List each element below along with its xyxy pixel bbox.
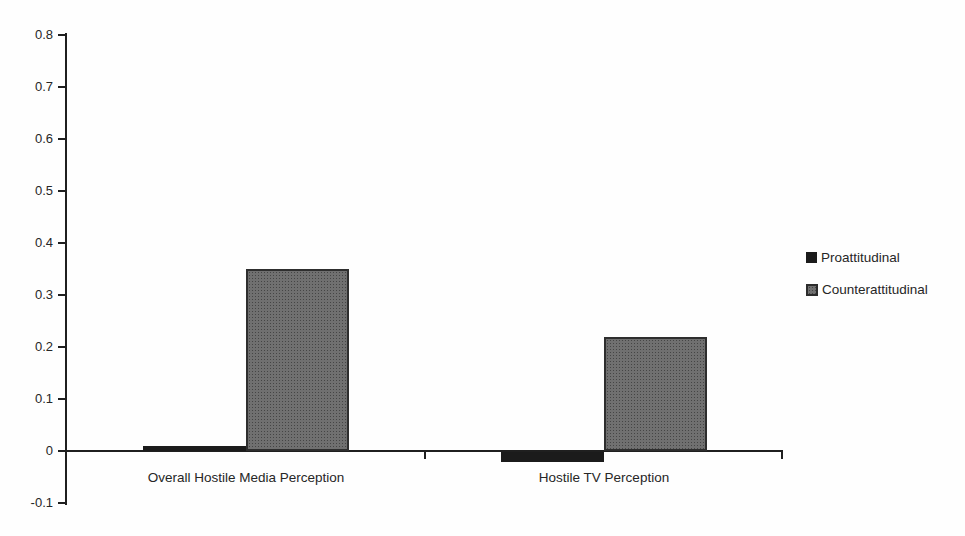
legend-item-proattitudinal: Proattitudinal: [806, 250, 928, 265]
legend-label-counterattitudinal: Counterattitudinal: [822, 282, 928, 297]
bar-counterattitudinal-group1: [604, 337, 707, 451]
x-axis-divider-tick: [424, 452, 426, 459]
y-tick-label: 0.1: [11, 391, 53, 407]
category-label: Overall Hostile Media Perception: [148, 470, 345, 485]
y-tick-label: -0.1: [11, 495, 53, 511]
category-label: Hostile TV Perception: [539, 470, 669, 485]
y-tick: [58, 398, 65, 400]
y-tick: [58, 346, 65, 348]
x-axis-end-tick: [781, 452, 783, 459]
legend-swatch-counterattitudinal-icon: [806, 284, 818, 296]
y-tick-label: 0.3: [11, 287, 53, 303]
y-axis: [65, 33, 67, 505]
y-tick: [58, 138, 65, 140]
y-tick: [58, 294, 65, 296]
legend: Proattitudinal Counterattitudinal: [806, 250, 928, 297]
y-tick: [58, 450, 65, 452]
y-tick: [58, 190, 65, 192]
bar-chart-figure: 0.80.70.60.50.40.30.20.10-0.1Overall Hos…: [0, 0, 965, 536]
bar-counterattitudinal-group0: [246, 269, 349, 451]
y-tick-label: 0.8: [11, 27, 53, 43]
legend-swatch-proattitudinal-icon: [806, 252, 817, 263]
y-tick: [58, 86, 65, 88]
y-tick-label: 0.4: [11, 235, 53, 251]
bar-proattitudinal-group0: [143, 446, 246, 451]
legend-label-proattitudinal: Proattitudinal: [821, 250, 900, 265]
bar-proattitudinal-group1: [501, 452, 604, 462]
y-tick: [58, 34, 65, 36]
y-tick-label: 0: [11, 443, 53, 459]
y-tick-label: 0.2: [11, 339, 53, 355]
y-tick: [58, 502, 65, 504]
legend-item-counterattitudinal: Counterattitudinal: [806, 282, 928, 297]
y-tick: [58, 242, 65, 244]
y-tick-label: 0.5: [11, 183, 53, 199]
y-tick-label: 0.6: [11, 131, 53, 147]
y-tick-label: 0.7: [11, 79, 53, 95]
